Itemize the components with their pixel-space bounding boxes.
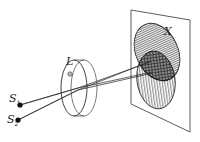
- lens-axis-marker-dot-icon: [69, 73, 70, 74]
- label-source-1: S1: [9, 92, 20, 106]
- ray-s1-upper: [20, 62, 150, 105]
- optics-diagram: [0, 0, 200, 142]
- label-source-2: S2: [7, 113, 18, 127]
- label-source-1-text: S: [9, 92, 17, 105]
- label-lens: L: [66, 55, 73, 68]
- label-screen: X: [164, 25, 172, 38]
- label-source-2-subscript: 2: [15, 120, 19, 127]
- label-source-1-subscript: 1: [17, 99, 21, 106]
- label-source-2-text: S: [7, 113, 15, 126]
